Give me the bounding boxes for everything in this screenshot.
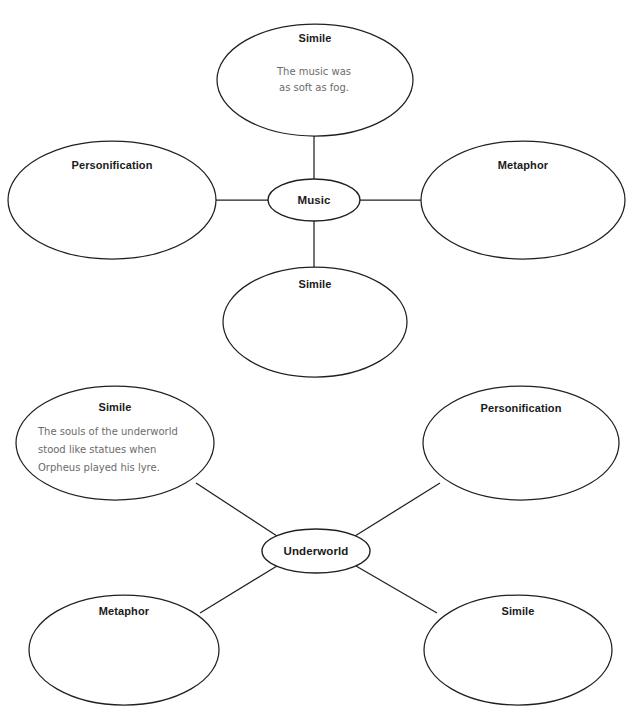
bubble-title: Simile xyxy=(501,605,534,617)
connector-line xyxy=(355,483,440,536)
connector-line xyxy=(196,483,277,536)
bubble-title: Metaphor xyxy=(99,605,150,617)
bubble-node[interactable]: Simile xyxy=(223,267,407,377)
bubble-node[interactable]: Simile xyxy=(424,595,612,705)
center-node[interactable]: Music xyxy=(268,179,360,221)
bubble-title: Personification xyxy=(72,159,153,171)
bubble-title: Metaphor xyxy=(498,159,549,171)
svg-root: SimileThe music wasas soft as fog.Person… xyxy=(8,24,625,705)
bubble-node[interactable]: Personification xyxy=(8,141,216,259)
underworld-bubble-map: SimileThe souls of the underworldstood l… xyxy=(16,386,619,705)
bubble-node[interactable]: SimileThe music wasas soft as fog. xyxy=(217,24,413,136)
bubble-body-line: stood like statues when xyxy=(38,444,156,455)
center-label: Underworld xyxy=(284,545,349,557)
music-bubble-map: SimileThe music wasas soft as fog.Person… xyxy=(8,24,625,377)
bubble-maps-svg: SimileThe music wasas soft as fog.Person… xyxy=(0,0,635,713)
bubble-node[interactable]: Metaphor xyxy=(421,141,625,259)
bubble-title: Simile xyxy=(298,278,331,290)
connector-line xyxy=(200,566,277,613)
bubble-body-line: The souls of the underworld xyxy=(37,426,178,437)
bubble-title: Personification xyxy=(481,402,562,414)
center-node[interactable]: Underworld xyxy=(262,529,370,573)
bubble-node[interactable]: Personification xyxy=(423,386,619,500)
connector-line xyxy=(356,566,437,613)
bubble-body-line: The music was xyxy=(276,66,351,77)
bubble-body-line: Orpheus played his lyre. xyxy=(38,462,160,473)
center-label: Music xyxy=(297,194,331,206)
bubble-node[interactable]: Metaphor xyxy=(29,595,219,705)
bubble-node[interactable]: SimileThe souls of the underworldstood l… xyxy=(16,386,214,500)
diagram-canvas: SimileThe music wasas soft as fog.Person… xyxy=(0,0,635,713)
bubble-title: Simile xyxy=(298,32,331,44)
bubble-body-line: as soft as fog. xyxy=(279,82,349,93)
bubble-title: Simile xyxy=(98,401,131,413)
